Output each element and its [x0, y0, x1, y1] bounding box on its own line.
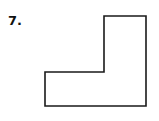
l-shape-figure — [0, 0, 159, 121]
l-shape-outline — [45, 16, 146, 106]
